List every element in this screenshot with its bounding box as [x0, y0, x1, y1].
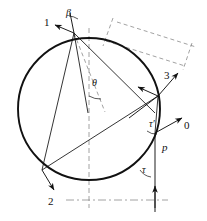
ray-2: [42, 170, 54, 190]
label-ray-0: 0: [184, 120, 190, 131]
label-angle-tau-prime: τ′: [149, 119, 155, 129]
chord-top-to-bottomleft: [42, 33, 74, 170]
label-angle-theta: θ: [92, 78, 97, 88]
figure-canvas: [0, 0, 207, 221]
theta-dashed-ray: [74, 33, 105, 112]
geometry-figure: 1 2 3 0 β θ τ τ′ p: [0, 0, 207, 221]
dashed-band-tick-right: [183, 43, 192, 70]
label-angle-tau: τ: [142, 165, 146, 175]
label-ray-1: 1: [44, 17, 50, 28]
theta-arc: [89, 96, 101, 99]
label-ray-3: 3: [164, 70, 170, 81]
label-ray-2: 2: [48, 196, 54, 207]
dashed-band-upper: [117, 22, 196, 47]
label-angle-beta: β: [66, 8, 71, 18]
label-point-p: p: [162, 142, 168, 153]
ray-1: [55, 25, 74, 33]
tangent-line-upperright: [129, 96, 158, 118]
chords: [42, 33, 158, 170]
normal-arrow-upperright: [138, 87, 158, 96]
